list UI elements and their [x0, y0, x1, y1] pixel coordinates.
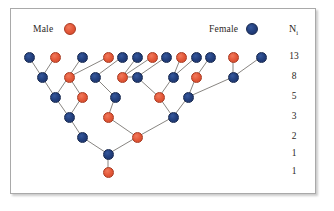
row-count-value: 1 — [286, 148, 302, 158]
legend-female-label: Female — [209, 24, 238, 34]
figure-panel: Male Female Ni 13853211 — [10, 8, 316, 194]
male-node[interactable] — [176, 52, 187, 63]
male-node[interactable] — [103, 167, 114, 178]
male-node[interactable] — [147, 52, 158, 63]
male-node[interactable] — [154, 92, 165, 103]
female-node[interactable] — [205, 52, 216, 63]
female-node[interactable] — [168, 72, 179, 83]
legend-male-label: Male — [33, 24, 53, 34]
male-node[interactable] — [50, 52, 61, 63]
female-node[interactable] — [132, 72, 143, 83]
female-node[interactable] — [228, 72, 239, 83]
male-node[interactable] — [103, 112, 114, 123]
female-node[interactable] — [117, 52, 128, 63]
male-node[interactable] — [191, 72, 202, 83]
male-node[interactable] — [103, 52, 114, 63]
female-node[interactable] — [77, 52, 88, 63]
male-node[interactable] — [64, 72, 75, 83]
row-count-value: 13 — [286, 51, 302, 61]
female-node[interactable] — [132, 52, 143, 63]
female-node[interactable] — [161, 52, 172, 63]
legend-male-marker-icon — [64, 23, 76, 35]
row-count-value: 5 — [286, 91, 302, 101]
row-count-value: 1 — [286, 166, 302, 176]
male-node[interactable] — [132, 132, 143, 143]
row-count-value: 3 — [286, 111, 302, 121]
female-node[interactable] — [64, 112, 75, 123]
female-node[interactable] — [191, 52, 202, 63]
female-node[interactable] — [183, 92, 194, 103]
female-node[interactable] — [37, 72, 48, 83]
male-node[interactable] — [228, 52, 239, 63]
female-node[interactable] — [256, 52, 267, 63]
tree-canvas: Male Female Ni 13853211 — [11, 9, 315, 193]
ni-header-subscript: i — [296, 29, 298, 36]
female-node[interactable] — [110, 92, 121, 103]
female-node[interactable] — [77, 132, 88, 143]
row-count-value: 8 — [286, 71, 302, 81]
female-node[interactable] — [24, 52, 35, 63]
male-node[interactable] — [77, 92, 88, 103]
legend-female-marker-icon — [246, 23, 258, 35]
row-count-value: 2 — [286, 131, 302, 141]
female-node[interactable] — [50, 92, 61, 103]
female-node[interactable] — [103, 149, 114, 160]
ni-column-header: Ni — [289, 23, 298, 36]
male-node[interactable] — [117, 72, 128, 83]
female-node[interactable] — [168, 112, 179, 123]
female-node[interactable] — [90, 72, 101, 83]
